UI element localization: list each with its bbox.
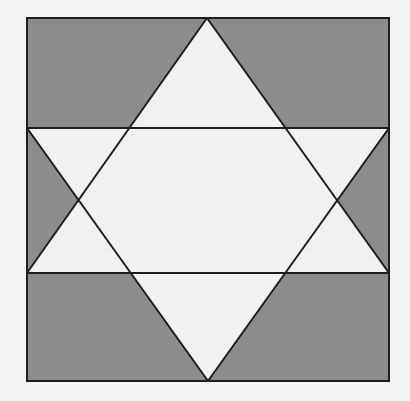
- diagram-canvas: Star of David inscribed in a square: [0, 0, 410, 401]
- star-in-square-figure: [0, 0, 410, 401]
